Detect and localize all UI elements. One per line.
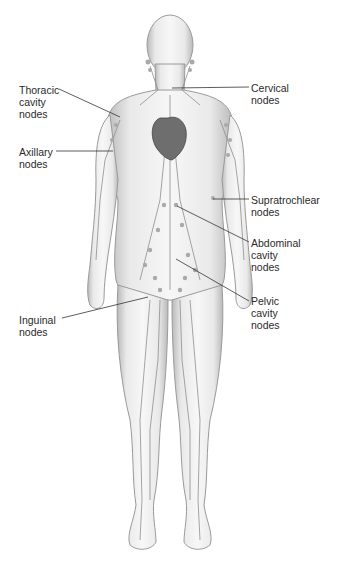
left-leg: [117, 285, 168, 549]
label-axillary-nodes: Axillary nodes: [19, 146, 53, 170]
right-leg: [172, 285, 223, 549]
label-thoracic-cavity-nodes: Thoracic cavity nodes: [19, 84, 59, 120]
label-pelvic-cavity-nodes: Pelvic cavity nodes: [251, 295, 280, 331]
left-arm: [88, 115, 118, 309]
label-inguinal-nodes: Inguinal nodes: [19, 314, 56, 338]
leader-line-thoracic: [59, 89, 120, 117]
label-supratrochlear-nodes: Supratrochlear nodes: [251, 194, 320, 218]
label-cervical-nodes: Cervical nodes: [251, 82, 289, 106]
label-abdominal-cavity-nodes: Abdominal cavity nodes: [251, 237, 301, 273]
right-arm: [222, 115, 252, 309]
